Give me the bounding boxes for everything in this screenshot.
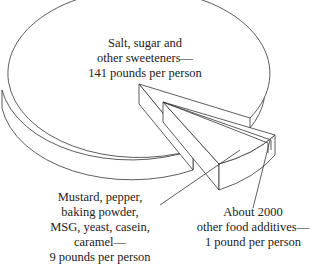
label-medium-line: 9 pounds per person — [30, 250, 170, 265]
label-small-line: About 2000 — [183, 205, 323, 220]
label-medium-line: MSG, yeast, casein, — [30, 220, 170, 235]
label-main-line: 141 pounds per person — [75, 66, 215, 81]
label-main-line: Salt, sugar and — [75, 36, 215, 51]
label-small-line: 1 pound per person — [183, 235, 323, 250]
label-medium-line: baking powder, — [30, 205, 170, 220]
label-medium-line: caramel— — [30, 235, 170, 250]
label-medium: Mustard, pepper, baking powder, MSG, yea… — [30, 190, 170, 265]
label-main: Salt, sugar and other sweeteners— 141 po… — [75, 36, 215, 81]
label-main-line: other sweeteners— — [75, 51, 215, 66]
label-medium-line: Mustard, pepper, — [30, 190, 170, 205]
label-small: About 2000 other food additives— 1 pound… — [183, 205, 323, 250]
label-small-line: other food additives— — [183, 220, 323, 235]
